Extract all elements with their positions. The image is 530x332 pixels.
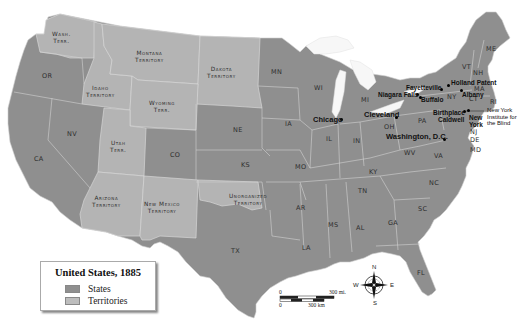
- label-il: IL: [326, 136, 332, 143]
- label-in: IN: [353, 138, 360, 145]
- compass-south: S: [373, 300, 377, 306]
- label-ky: KY: [369, 169, 378, 176]
- scale-bar: [280, 296, 334, 302]
- legend-swatch-states: [65, 285, 80, 293]
- label-vt: VT: [462, 64, 471, 71]
- label-ny: NY: [447, 94, 456, 101]
- scale-mi-start: 0: [279, 289, 282, 295]
- label-ks: KS: [241, 162, 250, 169]
- label-al: AL: [356, 225, 365, 232]
- label-oh: OH: [384, 124, 395, 131]
- scale-km-end: 300 km: [308, 302, 325, 308]
- label-sc: SC: [418, 206, 427, 213]
- compass-east: E: [390, 282, 394, 288]
- map-legend: United States, 1885 States Territories: [40, 261, 156, 311]
- label-va: VA: [434, 153, 443, 160]
- city-cleveland: Cleveland: [364, 111, 399, 119]
- label-mi: MI: [361, 97, 369, 104]
- city-niagara-falls: Niagara Falls: [378, 91, 418, 99]
- label-ga: GA: [388, 220, 398, 227]
- annotation-ny-institute-blind: New York Institute for the Blind: [487, 107, 517, 127]
- label-washington-territory: Wash.Terr.: [52, 31, 71, 45]
- label-nh: NH: [473, 70, 483, 77]
- city-albany: Albany: [462, 91, 484, 99]
- label-la: LA: [302, 245, 311, 252]
- label-md: MD: [470, 147, 481, 154]
- label-nv: NV: [67, 131, 77, 138]
- city-buffalo: Buffalo: [421, 96, 443, 104]
- label-ar: AR: [296, 205, 306, 212]
- city-holland-patent: Holland Patent: [451, 79, 497, 87]
- legend-title: United States, 1885: [41, 267, 155, 278]
- label-mn: MN: [271, 69, 282, 76]
- city-fayetteville: Fayetteville: [406, 84, 441, 92]
- legend-item-territories: Territories: [65, 296, 127, 305]
- scale-mi-end: 300 mi.: [329, 289, 346, 295]
- label-mo: MO: [295, 164, 306, 171]
- legend-label-states: States: [88, 284, 111, 294]
- label-de: DE: [470, 137, 480, 144]
- compass-rose: [360, 271, 388, 299]
- city-washington: Washington, D.C.: [386, 133, 448, 141]
- label-ne: NE: [233, 127, 243, 134]
- label-ca: CA: [34, 156, 44, 163]
- label-nj: NJ: [470, 129, 477, 136]
- label-wyoming-territory: WyomingTerr.: [149, 100, 175, 114]
- compass-west: W: [353, 282, 359, 288]
- label-newmexico-territory: New MexicoTerritory: [144, 201, 180, 215]
- label-or: OR: [42, 73, 52, 80]
- label-tx: TX: [231, 248, 240, 255]
- label-wv: WV: [404, 150, 415, 157]
- legend-label-territories: Territories: [88, 296, 127, 306]
- label-unorganized-territory: UnorganizedTerritory: [229, 193, 267, 207]
- label-fl: FL: [417, 270, 425, 277]
- label-me: ME: [486, 46, 496, 53]
- lake-superior: [306, 36, 354, 54]
- legend-item-states: States: [65, 284, 111, 293]
- compass-north: N: [372, 264, 376, 270]
- scale-km-start: 0: [279, 302, 282, 308]
- label-pa: PA: [418, 118, 427, 125]
- city-dot-holland-patent: [447, 84, 450, 87]
- label-ia: IA: [285, 121, 292, 128]
- label-arizona-territory: ArizonaTerritory: [92, 195, 121, 209]
- label-tn: TN: [358, 188, 367, 195]
- label-nc: NC: [429, 180, 439, 187]
- label-ri: RI: [490, 99, 497, 106]
- label-montana-territory: MontanaTerritory: [135, 50, 164, 64]
- label-wi: WI: [314, 85, 323, 92]
- legend-swatch-territories: [65, 297, 80, 305]
- label-co: CO: [170, 152, 180, 159]
- city-new-york-line2: York: [469, 121, 483, 129]
- city-dot-new-york: [467, 109, 470, 112]
- city-caldwell: Caldwell: [438, 116, 464, 124]
- city-chicago: Chicago: [313, 116, 343, 124]
- label-utah-territory: UtahTerr.: [110, 140, 126, 154]
- label-idaho-territory: IdahoTerritory: [86, 85, 115, 99]
- label-dakota-territory: DakotaTerritory: [207, 66, 236, 80]
- label-ms: MS: [328, 222, 338, 229]
